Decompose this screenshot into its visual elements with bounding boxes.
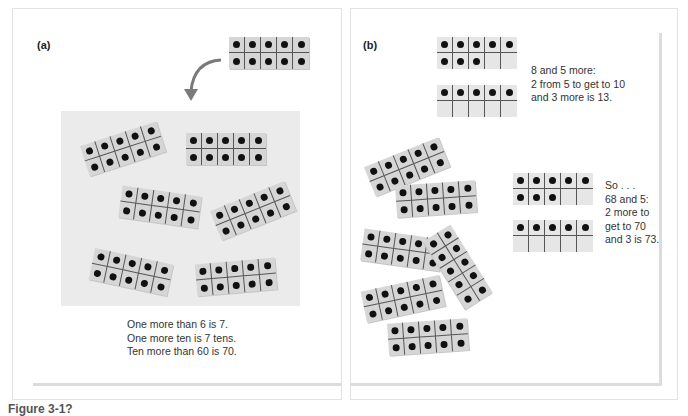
caption-line: One more than 6 is 7. — [127, 318, 237, 332]
cell — [513, 189, 529, 205]
cell — [545, 189, 561, 205]
counter-dot — [156, 282, 164, 290]
counter-dot — [231, 265, 239, 273]
cell — [250, 133, 266, 149]
cell — [561, 189, 577, 205]
cell — [469, 85, 485, 101]
counter-dot — [187, 215, 195, 223]
counter-dot — [221, 226, 230, 235]
cell — [419, 320, 436, 337]
panel-a-caption: One more than 6 is 7. One more ten is 7 … — [127, 318, 237, 359]
cell — [529, 220, 545, 236]
cell — [428, 198, 445, 215]
cell — [396, 201, 413, 218]
counter-dot — [549, 177, 556, 184]
counter-dot — [154, 211, 162, 219]
caption-line: and 3 is 73. — [605, 233, 659, 247]
counter-dot — [131, 132, 140, 141]
panel-b-bottom-bar — [351, 383, 662, 386]
counter-dot — [533, 224, 540, 231]
cell — [412, 200, 429, 217]
mat-ten-frame — [89, 248, 174, 296]
counter-dot — [215, 211, 224, 220]
caption-line: 8 and 5 more: — [531, 64, 625, 78]
cell — [261, 37, 277, 53]
counter-dot — [400, 206, 407, 213]
counter-dot — [397, 287, 405, 295]
cell — [453, 53, 469, 69]
cell — [388, 339, 405, 356]
counter-dot — [236, 220, 245, 229]
cell — [182, 210, 200, 228]
counter-dot — [201, 284, 209, 292]
cell — [451, 318, 468, 335]
counter-dot — [248, 280, 256, 288]
counter-dot — [121, 152, 130, 161]
cell — [146, 137, 166, 157]
counter-dot — [429, 239, 439, 249]
counter-dot — [265, 278, 273, 286]
cell — [437, 101, 453, 117]
counter-dot — [281, 202, 290, 211]
cell — [529, 173, 545, 189]
counter-dot — [457, 41, 464, 48]
counter-dot — [170, 213, 178, 221]
counter-dot — [446, 266, 456, 276]
counter-dot — [452, 244, 462, 254]
cell — [293, 37, 309, 53]
cell — [234, 133, 250, 149]
counter-dot — [407, 326, 414, 333]
counter-dot — [440, 340, 447, 347]
counter-dot — [383, 235, 391, 243]
counter-dot — [230, 205, 239, 214]
cell — [234, 149, 250, 165]
cell — [243, 259, 260, 276]
counter-dot — [206, 154, 213, 161]
counter-dot — [125, 190, 133, 198]
counter-dot — [441, 58, 448, 65]
counter-dot — [238, 154, 245, 161]
counter-dot — [412, 256, 420, 264]
cell — [260, 274, 277, 291]
counter-dot — [222, 137, 229, 144]
counter-dot — [420, 164, 429, 173]
counter-dot — [549, 194, 556, 201]
cell — [545, 220, 561, 236]
cell — [403, 322, 420, 339]
counter-dot — [565, 224, 572, 231]
caption-line: 2 more to — [605, 206, 659, 220]
counter-dot — [506, 89, 513, 96]
cell — [218, 149, 234, 165]
cell — [437, 53, 453, 69]
top-example-caption: 8 and 5 more: 2 from 5 to get to 10 and … — [531, 64, 625, 105]
caption-line: So . . . — [605, 179, 659, 193]
cell — [261, 53, 277, 69]
cell — [459, 180, 476, 197]
counter-dot — [146, 127, 155, 136]
counter-dot — [517, 224, 524, 231]
cell — [469, 53, 485, 69]
counter-dot — [173, 197, 181, 205]
incoming-ten-frame — [229, 37, 309, 69]
counter-dot — [438, 252, 448, 262]
counter-dot — [265, 58, 272, 65]
cell — [577, 189, 593, 205]
curved-arrow-icon — [173, 49, 233, 109]
cell — [513, 173, 529, 189]
scattered-ten-frame — [361, 275, 446, 323]
mat-ten-frame — [210, 181, 296, 241]
cell — [404, 338, 421, 355]
scattered-ten-frame — [387, 318, 469, 356]
cell — [245, 37, 261, 53]
cell — [452, 334, 469, 351]
cell — [485, 101, 501, 117]
cell — [561, 236, 577, 252]
cell — [245, 53, 261, 69]
cell — [437, 37, 453, 53]
counter-dot — [431, 187, 438, 194]
counter-dot — [455, 280, 465, 290]
cell — [212, 278, 229, 295]
cell — [427, 182, 444, 199]
counter-dot — [216, 283, 224, 291]
counter-dot — [400, 303, 408, 311]
